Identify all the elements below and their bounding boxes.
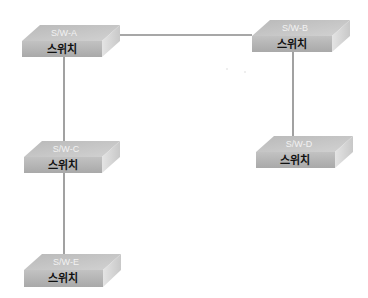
switch-node-b[interactable]: S/W-B 스위치: [252, 20, 350, 52]
switch-name: S/W-E: [53, 257, 79, 267]
switch-label: 스위치: [47, 42, 77, 56]
switch-name: S/W-C: [53, 144, 80, 154]
switch-name: S/W-B: [282, 23, 308, 33]
switch-node-c[interactable]: S/W-C 스위치: [24, 141, 120, 173]
switch-name: S/W-A: [51, 28, 77, 38]
switch-label: 스위치: [48, 158, 78, 172]
switch-node-e[interactable]: S/W-E 스위치: [24, 254, 121, 287]
speck: [226, 68, 228, 70]
switch-label: 스위치: [48, 271, 78, 285]
switch-node-d[interactable]: S/W-D 스위치: [256, 136, 353, 168]
speck: [244, 71, 246, 73]
switch-name: S/W-D: [286, 139, 313, 149]
network-diagram: S/W-A 스위치 S/W-B 스위치 S/W-C 스위치 S/W-D 스위치 …: [0, 0, 368, 298]
switch-label: 스위치: [280, 153, 310, 167]
switch-node-a[interactable]: S/W-A 스위치: [22, 25, 120, 57]
switch-label: 스위치: [277, 37, 307, 51]
